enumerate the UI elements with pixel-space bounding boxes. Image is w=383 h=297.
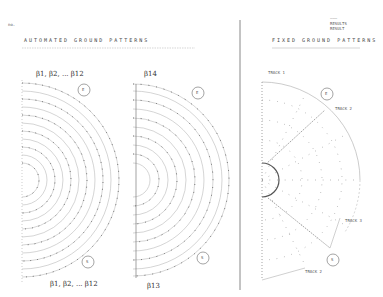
corner-mark: no. — [8, 22, 15, 27]
pattern-b-top-label: β14 — [144, 70, 157, 78]
pattern-a-marker-e: E — [82, 87, 84, 92]
pattern-b-marker-e: E — [196, 90, 198, 95]
pattern-a-dots — [22, 83, 119, 277]
track-2-label: TRACK 2 — [335, 106, 352, 111]
track-2-bottom-label: TRACK 2 — [305, 269, 322, 274]
pattern-a-marker-s: S — [86, 259, 88, 264]
fixed-pattern — [262, 82, 360, 280]
fixed-marker-s: S — [331, 257, 333, 262]
pattern-a-bottom-label: β1, β2, ... β12 — [50, 280, 98, 288]
fixed-title: FIXED GROUND PATTERNS — [272, 37, 377, 43]
track-1-label: TRACK 1 — [268, 70, 285, 75]
pattern-a-arcs — [22, 83, 119, 277]
track-3-label: TRACK 3 — [345, 218, 362, 223]
pattern-b-bottom-label: β13 — [147, 282, 160, 290]
pattern-a-top-label: β1, β2, ... β12 — [36, 70, 84, 78]
pattern-b-dots — [133, 84, 229, 276]
drawing-canvas — [0, 0, 383, 297]
fixed-marker-e: E — [325, 91, 327, 96]
automated-title: AUTOMATED GROUND PATTERNS — [24, 37, 149, 43]
pattern-b-marker-s: S — [201, 255, 203, 260]
pattern-b-arcs — [133, 84, 229, 276]
stamp-line-3: RESULT — [330, 26, 344, 31]
fixed-pattern-grid — [262, 95, 358, 265]
